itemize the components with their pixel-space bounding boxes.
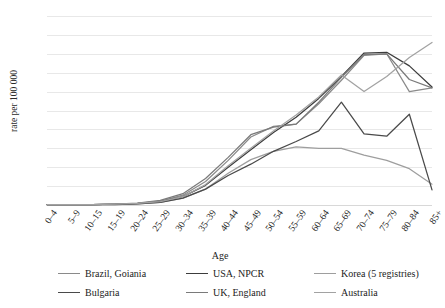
legend-label: Australia [341,287,378,298]
legend-label: Brazil, Goiania [85,268,146,279]
legend-swatch [314,292,336,293]
legend-item[interactable]: Brazil, Goiania [58,268,186,279]
legend-label: UK, England [213,287,266,298]
series-lines [47,16,432,205]
legend-label: Korea (5 registries) [341,268,419,279]
legend-label: USA, NPCR [213,268,264,279]
x-axis-ticks: 0–45–910–1515–1920–2425–2930–3435–3940–4… [47,206,432,252]
series-line [47,42,432,204]
series-line [47,54,432,205]
legend-swatch [186,292,208,293]
legend-item[interactable]: Australia [314,287,445,298]
legend-item[interactable]: Bulgaria [58,287,186,298]
x-axis-title: Age [0,250,440,261]
series-line [47,54,432,205]
legend-label: Bulgaria [85,287,119,298]
series-line [47,52,432,204]
legend-swatch [58,273,80,274]
legend-item[interactable]: Korea (5 registries) [314,268,445,279]
legend-item[interactable]: UK, England [186,287,314,298]
legend-swatch [314,273,336,274]
series-line [47,147,432,205]
legend-swatch [186,273,208,274]
y-axis-title: rate per 100 000 [9,41,19,161]
legend-item[interactable]: USA, NPCR [186,268,314,279]
series-line [47,102,432,204]
legend-swatch [58,292,80,293]
chart-legend: Brazil, GoianiaUSA, NPCRKorea (5 registr… [58,264,428,302]
plot-area: 500450400350300250200150100500 [47,16,432,205]
